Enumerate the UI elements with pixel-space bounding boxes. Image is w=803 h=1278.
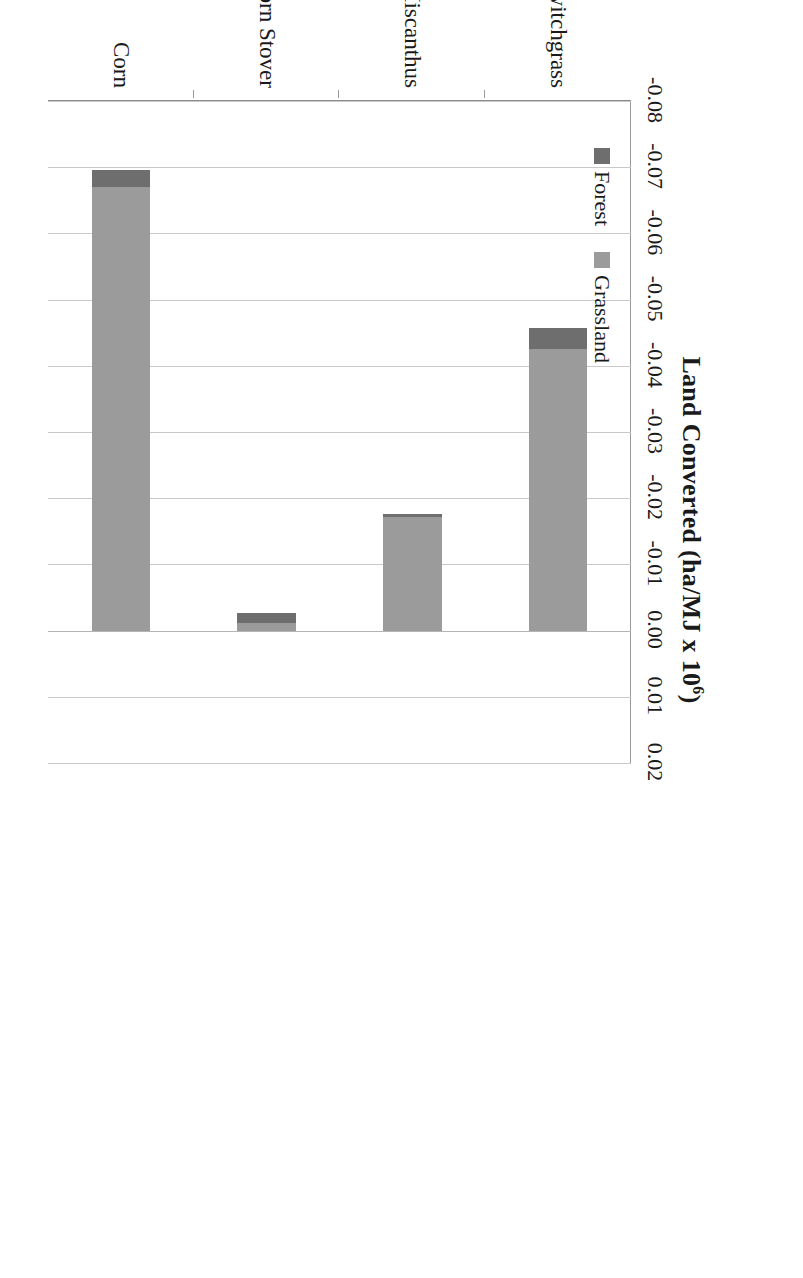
bar-segment-forest[interactable] <box>383 514 441 517</box>
bar-row[interactable] <box>383 101 441 762</box>
legend-label: Grassland <box>589 275 615 363</box>
chart-title-text: Land Converted (ha/MJ x 10 <box>677 356 706 686</box>
legend-item-forest[interactable]: Forest <box>589 148 615 226</box>
rotated-figure-container: Land Converted (ha/MJ x 106) -0.08-0.07-… <box>0 0 803 1278</box>
category-label: Corn Stover <box>254 0 280 88</box>
y-axis-category-labels: SwitchgrassMiscanthusCorn StoverCorn <box>48 0 631 96</box>
chart-figure: Land Converted (ha/MJ x 106) -0.08-0.07-… <box>0 0 803 1278</box>
bar-row[interactable] <box>529 101 587 762</box>
x-tick-label: -0.06 <box>642 209 668 255</box>
category-label: Miscanthus <box>399 0 425 88</box>
gridline <box>48 763 631 764</box>
category-label: Switchgrass <box>545 0 571 88</box>
chart-title: Land Converted (ha/MJ x 106) <box>676 0 707 1060</box>
x-tick-label: 0.01 <box>642 677 668 716</box>
x-tick-label: -0.08 <box>642 77 668 123</box>
x-tick-label: -0.01 <box>642 540 668 586</box>
bar-segment-grassland[interactable] <box>529 349 587 630</box>
legend-label: Forest <box>589 171 615 226</box>
chart-legend: ForestGrassland <box>589 148 615 363</box>
x-tick-label: -0.03 <box>642 408 668 454</box>
x-tick-label: 0.00 <box>642 610 668 649</box>
bar-row[interactable] <box>237 101 295 762</box>
x-axis-tick-labels: -0.08-0.07-0.06-0.05-0.04-0.03-0.02-0.01… <box>632 0 668 1278</box>
x-tick-label: 0.02 <box>642 743 668 782</box>
x-tick-label: -0.07 <box>642 143 668 189</box>
legend-swatch-icon <box>594 148 610 164</box>
chart-title-suffix: ) <box>677 695 706 704</box>
category-axis-tick <box>193 90 194 98</box>
chart-title-exponent: 6 <box>690 686 707 694</box>
x-tick-label: -0.05 <box>642 276 668 322</box>
plot-area <box>48 100 631 762</box>
bar-row[interactable] <box>92 101 150 762</box>
category-label: Corn <box>108 42 134 88</box>
legend-swatch-icon <box>594 252 610 268</box>
bar-segment-grassland[interactable] <box>92 187 150 631</box>
x-tick-label: -0.02 <box>642 474 668 520</box>
bar-segment-forest[interactable] <box>529 328 587 349</box>
bar-segment-grassland[interactable] <box>383 517 441 631</box>
bar-segment-forest[interactable] <box>237 613 295 623</box>
category-axis-tick <box>484 90 485 98</box>
bar-segment-grassland[interactable] <box>237 623 295 631</box>
category-axis-tick <box>339 90 340 98</box>
legend-item-grassland[interactable]: Grassland <box>589 252 615 363</box>
bar-segment-forest[interactable] <box>92 170 150 187</box>
x-tick-label: -0.04 <box>642 342 668 388</box>
